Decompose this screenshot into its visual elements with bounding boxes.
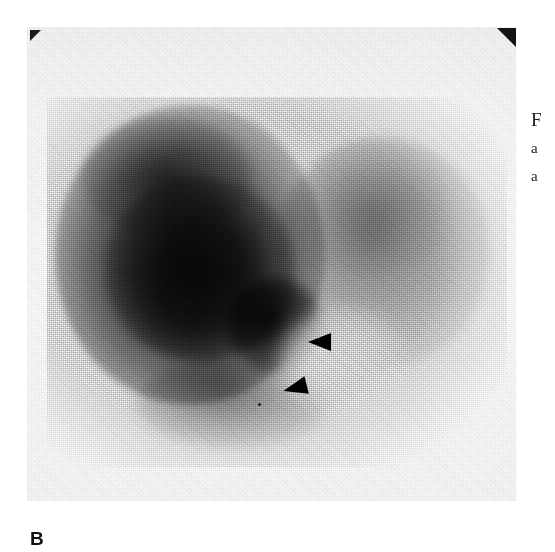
corner-marker-icon (30, 30, 41, 41)
corner-marker-icon (497, 28, 516, 48)
caption-text-clipped: F a a (531, 106, 555, 190)
caption-line: F (531, 106, 555, 134)
halftone-print-texture-diagonal (27, 27, 516, 501)
arrowhead-icon (308, 333, 331, 351)
caption-line: a (531, 162, 555, 190)
caption-line: a (531, 134, 555, 162)
panel-label: B (30, 529, 44, 548)
scintigraphy-image-panel (27, 27, 516, 501)
film-artifact-dot (258, 403, 261, 406)
